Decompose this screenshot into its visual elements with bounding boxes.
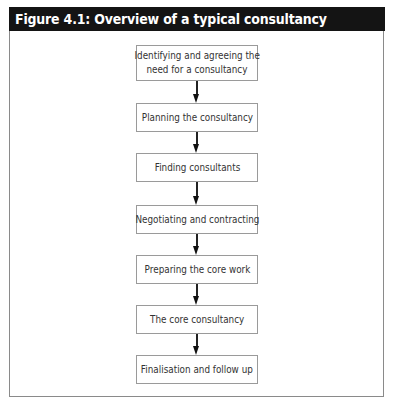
flow-step-negotiating: Negotiating and contracting xyxy=(136,205,258,234)
figure-title-bar: Figure 4.1: Overview of a typical consul… xyxy=(9,7,385,31)
flow-step-planning: Planning the consultancy xyxy=(136,103,258,132)
arrow-down-icon xyxy=(193,132,200,153)
figure-title: Figure 4.1: Overview of a typical consul… xyxy=(15,11,327,27)
flow-step-label: Negotiating and contracting xyxy=(135,213,259,227)
flow-step-finalisation: Finalisation and follow up xyxy=(136,355,258,384)
flow-step-label-line2: need for a consultancy xyxy=(146,63,247,77)
arrow-down-icon xyxy=(193,81,200,103)
arrow-down-icon xyxy=(193,284,200,305)
arrow-down-icon xyxy=(193,234,200,255)
flow-step-label: Preparing the core work xyxy=(144,263,250,277)
flow-step-identifying-need: Identifying and agreeing the need for a … xyxy=(136,45,258,81)
arrow-down-icon xyxy=(193,334,200,355)
arrow-down-icon xyxy=(193,182,200,205)
flow-step-label: Finalisation and follow up xyxy=(141,363,253,377)
flow-step-label: Finding consultants xyxy=(154,161,240,175)
flow-step-preparing-core-work: Preparing the core work xyxy=(136,255,258,284)
flow-step-label: The core consultancy xyxy=(150,313,244,327)
flow-step-finding-consultants: Finding consultants xyxy=(136,153,258,182)
flow-step-core-consultancy: The core consultancy xyxy=(136,305,258,334)
flow-step-label: Planning the consultancy xyxy=(141,111,252,125)
flow-step-label-line1: Identifying and agreeing the xyxy=(134,49,259,63)
